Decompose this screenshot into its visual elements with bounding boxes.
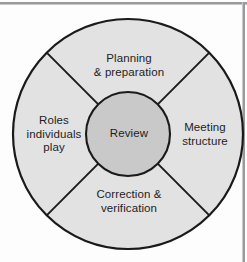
diagram-canvas: Planning & preparation Meeting structure… [0,0,247,262]
center-hub [86,92,170,176]
review-cycle-diagram [0,0,247,262]
